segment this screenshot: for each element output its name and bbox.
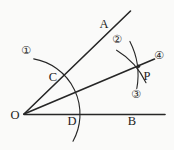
step-4-marker: ④: [154, 49, 164, 62]
compass-arc-3-centered-D: [117, 50, 146, 83]
step-2-marker: ②: [112, 33, 122, 46]
label-C: C: [49, 70, 57, 84]
angle-bisector-construction-diagram: O A B C D P ① ② ③ ④: [0, 0, 174, 150]
step-1-marker: ①: [21, 44, 31, 57]
label-P: P: [144, 69, 151, 83]
label-D: D: [67, 114, 76, 128]
ray-OA: [24, 11, 131, 114]
label-O: O: [10, 108, 19, 122]
diagram-canvas: O A B C D P ① ② ③ ④: [0, 0, 174, 150]
ray-OP-bisector: [24, 59, 155, 114]
label-B: B: [128, 114, 136, 128]
point-P-dot: [137, 65, 140, 68]
step-3-marker: ③: [131, 88, 141, 101]
label-A: A: [99, 17, 108, 31]
